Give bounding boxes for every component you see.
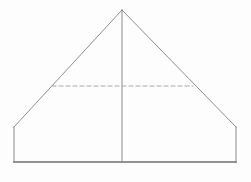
figure-background: [0, 0, 251, 182]
geometry-figure: [0, 0, 251, 182]
diagram-canvas: [0, 0, 251, 182]
